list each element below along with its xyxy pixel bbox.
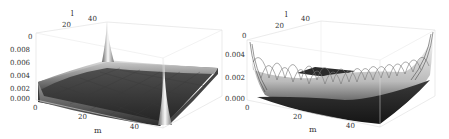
surface-graphic-left xyxy=(0,0,225,139)
l-tick: 40 xyxy=(301,16,310,23)
m-tick: 40 xyxy=(346,123,355,130)
z-tick: 0.004 xyxy=(10,73,30,80)
surface-plot-left: 0 0.008 0.006 0.004 0.002 0.000 0 20 40 … xyxy=(0,0,225,139)
m-axis-title: m xyxy=(309,126,317,134)
surface-plot-right: 0 0.004 0.002 0.000 0 20 40 m l 20 40 xyxy=(225,0,449,139)
z-tick: 0.008 xyxy=(10,47,30,54)
z-tick: 0.000 xyxy=(10,96,30,103)
m-tick: 0 xyxy=(245,105,249,112)
z-tick-top-zero: 0 xyxy=(242,33,246,40)
l-axis-title: l xyxy=(71,10,74,18)
z-tick: 0.002 xyxy=(10,86,30,93)
m-axis-title: m xyxy=(94,127,102,135)
m-tick: 40 xyxy=(130,124,139,131)
m-tick: 0 xyxy=(33,105,37,112)
m-tick: 20 xyxy=(78,114,87,121)
l-axis-title: l xyxy=(285,11,288,19)
z-tick-top-zero: 0 xyxy=(28,34,32,41)
z-tick: 0.000 xyxy=(225,96,245,103)
l-tick: 20 xyxy=(62,22,71,29)
m-tick: 20 xyxy=(293,114,302,121)
l-tick: 40 xyxy=(88,16,97,23)
z-tick: 0.002 xyxy=(225,75,245,82)
z-tick: 0.006 xyxy=(10,60,30,67)
l-tick: 20 xyxy=(275,23,284,30)
surface-graphic-right xyxy=(225,0,449,139)
z-tick: 0.004 xyxy=(225,52,245,59)
